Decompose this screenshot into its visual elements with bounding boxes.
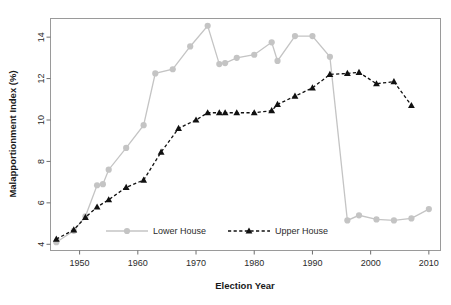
series-line-lower-house <box>56 26 429 242</box>
y-tick-label: 4 <box>36 242 46 247</box>
data-point-upper-house <box>251 109 258 115</box>
data-point-upper-house <box>175 125 182 131</box>
data-point-upper-house <box>94 203 101 209</box>
x-tick-label: 1970 <box>186 258 206 268</box>
data-point-lower-house <box>269 39 275 45</box>
data-point-lower-house <box>327 54 333 60</box>
x-tick-label: 1990 <box>302 258 322 268</box>
data-point-lower-house <box>100 181 106 187</box>
data-point-lower-house <box>170 66 176 72</box>
data-point-lower-house <box>216 61 222 67</box>
x-tick-label: 2000 <box>361 258 381 268</box>
data-point-upper-house <box>233 109 240 115</box>
data-point-lower-house <box>106 167 112 173</box>
line-chart: 1950196019701980199020002010 468101214 L… <box>0 0 451 305</box>
data-point-lower-house <box>344 217 350 223</box>
data-point-lower-house <box>391 217 397 223</box>
data-point-lower-house <box>309 33 315 39</box>
data-point-lower-house <box>152 70 158 76</box>
data-point-upper-house <box>292 93 299 99</box>
chart-legend: Lower HouseUpper House <box>106 226 328 236</box>
data-point-upper-house <box>309 84 316 90</box>
data-series-group <box>53 23 432 246</box>
y-tick-label: 12 <box>36 74 46 84</box>
legend-label-lower-house: Lower House <box>153 226 206 236</box>
x-axis-ticks: 1950196019701980199020002010 <box>70 251 439 268</box>
data-point-lower-house <box>356 212 362 218</box>
data-point-upper-house <box>140 176 147 182</box>
x-axis-title: Election Year <box>215 280 275 291</box>
data-point-lower-house <box>123 145 129 151</box>
data-point-upper-house <box>105 196 112 202</box>
data-point-lower-house <box>251 52 257 58</box>
y-tick-label: 8 <box>36 159 46 164</box>
y-tick-label: 6 <box>36 200 46 205</box>
y-tick-label: 10 <box>36 115 46 125</box>
x-tick-label: 1960 <box>128 258 148 268</box>
y-tick-label: 14 <box>36 32 46 42</box>
y-axis-title: Malapportionment Index (%) <box>7 70 18 197</box>
data-point-lower-house <box>234 55 240 61</box>
data-point-lower-house <box>187 43 193 49</box>
data-point-upper-house <box>53 236 60 242</box>
data-point-lower-house <box>426 206 432 212</box>
data-point-lower-house <box>408 215 414 221</box>
data-point-upper-house <box>216 109 223 115</box>
data-point-lower-house <box>274 58 280 64</box>
plot-frame <box>51 19 441 251</box>
x-tick-label: 1980 <box>244 258 264 268</box>
data-point-lower-house <box>205 23 211 29</box>
data-point-upper-house <box>356 69 363 75</box>
data-point-lower-house <box>222 60 228 66</box>
data-point-lower-house <box>292 33 298 39</box>
data-point-upper-house <box>408 102 415 108</box>
data-point-lower-house <box>141 122 147 128</box>
data-point-lower-house <box>373 216 379 222</box>
data-point-lower-house <box>94 182 100 188</box>
x-tick-label: 2010 <box>419 258 439 268</box>
data-point-upper-house <box>193 116 200 122</box>
y-axis-ticks: 468101214 <box>36 32 51 247</box>
x-tick-label: 1950 <box>70 258 90 268</box>
legend-marker-lower-house <box>124 228 130 234</box>
data-point-upper-house <box>222 109 229 115</box>
chart-figure: 1950196019701980199020002010 468101214 L… <box>0 0 451 305</box>
data-point-upper-house <box>391 78 398 84</box>
plot-frame-group <box>51 19 441 251</box>
legend-label-upper-house: Upper House <box>275 226 328 236</box>
